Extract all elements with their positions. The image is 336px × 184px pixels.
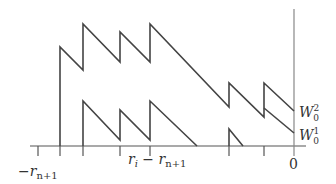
lower-sawtooth-tail: [264, 108, 294, 133]
lower-sawtooth-spike: [229, 129, 243, 146]
label-minus-r-n-plus-1: −rn+1: [18, 163, 58, 181]
label-ri-minus-r-n-plus-1: ri − rn+1: [128, 151, 186, 169]
label-zero: 0: [289, 156, 298, 172]
label-w0-2: W20: [299, 103, 319, 123]
lower-sawtooth-curve-w01: [83, 101, 197, 146]
sawtooth-diagram: −rn+1 ri − rn+1 0 W20 W10: [0, 0, 336, 184]
label-w0-1: W10: [299, 126, 319, 146]
